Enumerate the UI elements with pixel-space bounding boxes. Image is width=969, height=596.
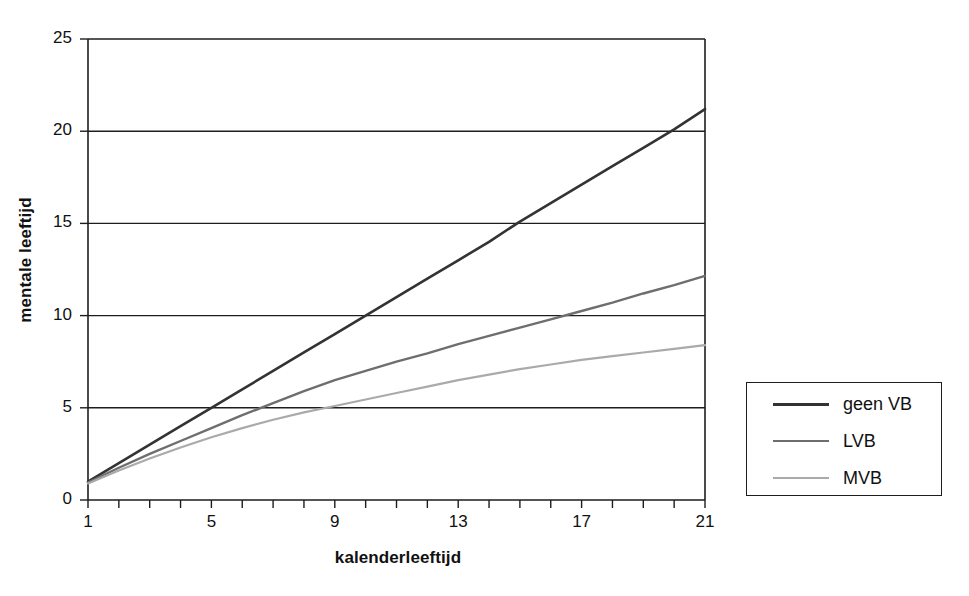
gridlines <box>88 39 705 408</box>
series-line-geen-vb <box>88 109 705 481</box>
x-axis-tick-marks <box>88 500 705 508</box>
chart-figure: mentale leeftijd kalenderleeftijd 051015… <box>0 0 969 596</box>
series-line-lvb <box>88 276 705 483</box>
y-axis-tick-marks <box>80 39 88 500</box>
legend-line-swatch <box>773 440 829 442</box>
legend: geen VBLVBMVB <box>746 382 942 496</box>
legend-item[interactable]: LVB <box>747 422 941 460</box>
legend-line-swatch <box>773 403 829 406</box>
legend-item[interactable]: geen VB <box>747 385 941 423</box>
legend-item-label: MVB <box>843 468 882 489</box>
series-line-mvb <box>88 345 705 483</box>
data-series-group <box>88 109 705 483</box>
legend-item-label: geen VB <box>843 394 912 415</box>
legend-item[interactable]: MVB <box>747 459 941 497</box>
legend-item-label: LVB <box>843 431 876 452</box>
legend-line-swatch <box>773 477 829 479</box>
axis-lines <box>88 39 705 500</box>
plot-area <box>0 0 969 596</box>
